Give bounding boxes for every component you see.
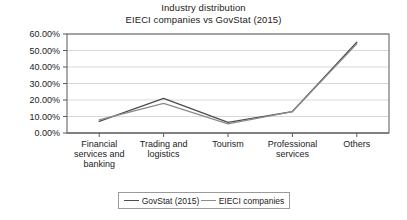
- x-axis-category-label: Tourism: [212, 139, 244, 149]
- x-axis-category-label: Trading and: [140, 139, 188, 149]
- x-axis-category-label: Others: [343, 139, 371, 149]
- y-axis-tick-label: 50.00%: [29, 46, 60, 56]
- chart-container: Industry distribution EIECI companies vs…: [0, 0, 407, 220]
- legend-swatch-govstat: [124, 200, 139, 201]
- x-axis-category-label: services and: [74, 149, 125, 159]
- y-axis-tick-label: 40.00%: [29, 62, 60, 72]
- gridlines: [67, 34, 389, 133]
- y-axis-tick-label: 60.00%: [29, 29, 60, 39]
- chart-plot-area: 0.00%10.00%20.00%30.00%40.00%50.00%60.00…: [0, 0, 407, 220]
- chart-legend: GovStat (2015) EIECI companies: [118, 192, 290, 209]
- x-axis-category-label: banking: [83, 159, 115, 169]
- legend-label-govstat: GovStat (2015): [142, 196, 200, 206]
- x-axis-category-label: services: [276, 149, 310, 159]
- legend-item-govstat: GovStat (2015): [124, 196, 200, 206]
- y-axis-tick-label: 30.00%: [29, 79, 60, 89]
- y-axis-tick-label: 10.00%: [29, 112, 60, 122]
- x-axis-category-label: Professional: [268, 139, 318, 149]
- x-axis-category-label: Financial: [81, 139, 117, 149]
- x-axis-category-labels: Financialservices andbankingTrading andl…: [74, 139, 371, 169]
- x-axis-category-label: logistics: [148, 149, 181, 159]
- legend-item-eieci: EIECI companies: [201, 196, 285, 206]
- legend-label-eieci: EIECI companies: [219, 196, 285, 206]
- y-axis-tick-label: 0.00%: [34, 128, 60, 138]
- y-axis-tick-labels: 0.00%10.00%20.00%30.00%40.00%50.00%60.00…: [29, 29, 67, 138]
- legend-swatch-eieci: [201, 200, 216, 201]
- y-axis-tick-label: 20.00%: [29, 95, 60, 105]
- x-axis-tick-marks: [99, 133, 357, 137]
